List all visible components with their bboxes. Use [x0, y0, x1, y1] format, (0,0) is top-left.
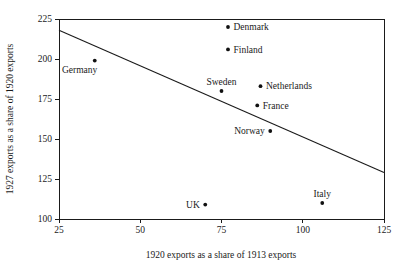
plot-border: [59, 19, 384, 219]
x-tick-label-100: 100: [296, 225, 311, 235]
x-axis-title: 1920 exports as a share of 1913 exports: [146, 250, 297, 260]
x-tick-label-50: 50: [136, 225, 146, 235]
point-label-italy: Italy: [314, 189, 332, 199]
x-tick-label-75: 75: [217, 225, 227, 235]
data-point-germany: [93, 59, 97, 63]
data-point-france: [255, 104, 259, 108]
data-point-norway: [268, 129, 272, 133]
scatter-chart-figure: 255075100125100125150175200225 GermanyDe…: [0, 0, 407, 265]
x-tick-label-125: 125: [377, 225, 392, 235]
y-tick-label-175: 175: [38, 94, 53, 104]
trend-line: [59, 30, 384, 172]
data-point-sweden: [220, 89, 224, 93]
point-label-finland: Finland: [234, 45, 263, 55]
point-label-netherlands: Netherlands: [266, 81, 312, 91]
point-label-denmark: Denmark: [234, 22, 270, 32]
y-tick-label-125: 125: [38, 174, 53, 184]
tick-labels: 255075100125100125150175200225: [38, 14, 392, 235]
data-point-italy: [320, 201, 324, 205]
y-axis-title: 1927 exports as a share of 1920 exports: [5, 43, 15, 194]
y-tick-label-225: 225: [38, 14, 53, 24]
x-tick-label-25: 25: [54, 225, 64, 235]
regression-line: [59, 30, 384, 172]
data-point-denmark: [226, 25, 230, 29]
y-tick-label-200: 200: [38, 54, 53, 64]
axes-frame: [59, 19, 384, 219]
point-label-sweden: Sweden: [206, 77, 236, 87]
point-label-norway: Norway: [234, 126, 265, 136]
chart-canvas: 255075100125100125150175200225 GermanyDe…: [0, 0, 407, 265]
point-label-uk: UK: [186, 200, 200, 210]
y-tick-label-150: 150: [38, 134, 53, 144]
data-point-uk: [203, 203, 207, 207]
data-point-netherlands: [259, 84, 263, 88]
data-point-labels: GermanyDenmarkFinlandSwedenNetherlandsFr…: [62, 22, 331, 210]
data-point-finland: [226, 48, 230, 52]
data-points: [93, 25, 324, 206]
point-label-france: France: [263, 101, 289, 111]
point-label-germany: Germany: [62, 65, 98, 75]
y-tick-label-100: 100: [38, 214, 53, 224]
